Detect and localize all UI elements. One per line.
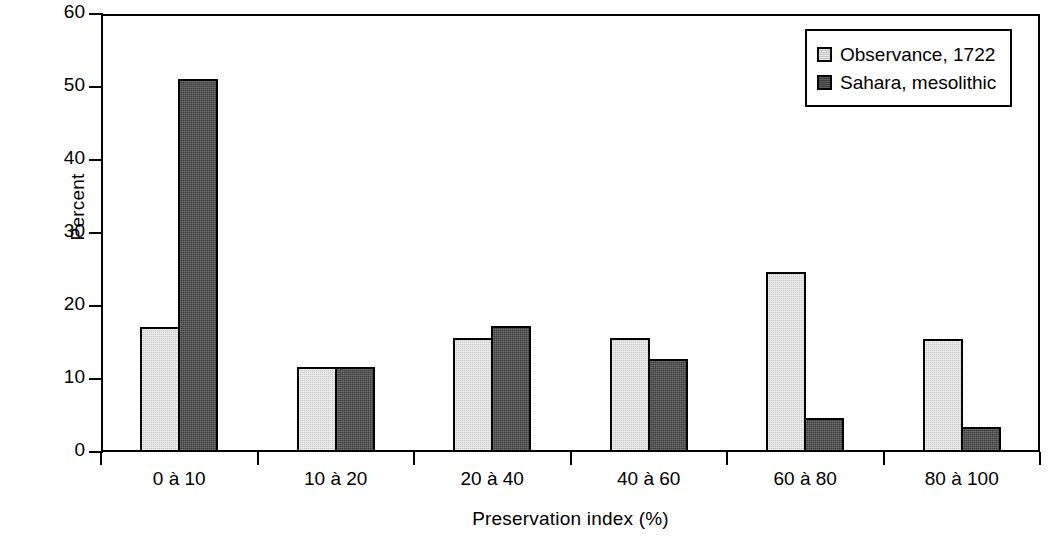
legend-item: Observance, 1722 bbox=[817, 40, 996, 68]
bar bbox=[804, 418, 844, 452]
y-axis-tick-label: 20 bbox=[64, 293, 85, 315]
x-axis-tick-mark bbox=[1039, 452, 1041, 465]
legend-swatch-observance bbox=[817, 47, 832, 62]
bar bbox=[648, 359, 688, 452]
x-axis-tick-mark bbox=[726, 452, 728, 465]
bar bbox=[335, 367, 375, 452]
x-axis-tick-label: 10 à 20 bbox=[246, 468, 426, 490]
bar-group bbox=[414, 14, 571, 452]
bar-group bbox=[571, 14, 728, 452]
x-axis-tick-label: 20 à 40 bbox=[402, 468, 582, 490]
bar bbox=[178, 79, 218, 452]
x-axis-tick-mark bbox=[413, 452, 415, 465]
bar-chart-figure: Percent 0102030405060 0 à 1010 à 2020 à … bbox=[0, 0, 1058, 543]
bar bbox=[453, 338, 493, 452]
bar bbox=[610, 338, 650, 452]
bar bbox=[491, 326, 531, 452]
x-axis-tick-label: 0 à 10 bbox=[89, 468, 269, 490]
x-axis-tick-mark bbox=[883, 452, 885, 465]
x-axis-tick-label: 40 à 60 bbox=[559, 468, 739, 490]
y-axis-tick-label: 50 bbox=[64, 74, 85, 96]
x-axis-tick-mark bbox=[570, 452, 572, 465]
bar bbox=[923, 339, 963, 452]
chart-legend: Observance, 1722 Sahara, mesolithic bbox=[805, 29, 1012, 107]
x-axis-title: Preservation index (%) bbox=[101, 508, 1040, 530]
x-axis-tick-mark bbox=[257, 452, 259, 465]
bar bbox=[961, 427, 1001, 452]
y-axis-tick-label: 60 bbox=[64, 1, 85, 23]
x-axis-tick-label: 60 à 80 bbox=[715, 468, 895, 490]
y-axis-tick-label: 0 bbox=[74, 439, 85, 461]
x-axis-tick-label: 80 à 100 bbox=[872, 468, 1052, 490]
bar-group bbox=[258, 14, 415, 452]
x-axis-tick-mark bbox=[100, 452, 102, 465]
y-axis-tick-label: 10 bbox=[64, 366, 85, 388]
bar bbox=[140, 327, 180, 452]
legend-label-sahara: Sahara, mesolithic bbox=[840, 73, 996, 92]
legend-label-observance: Observance, 1722 bbox=[840, 45, 995, 64]
bar bbox=[766, 272, 806, 452]
legend-item: Sahara, mesolithic bbox=[817, 68, 996, 96]
legend-swatch-sahara bbox=[817, 75, 832, 90]
y-axis-tick-label: 40 bbox=[64, 147, 85, 169]
y-axis-tick-label: 30 bbox=[64, 220, 85, 242]
bar-group bbox=[101, 14, 258, 452]
bar bbox=[297, 367, 337, 452]
